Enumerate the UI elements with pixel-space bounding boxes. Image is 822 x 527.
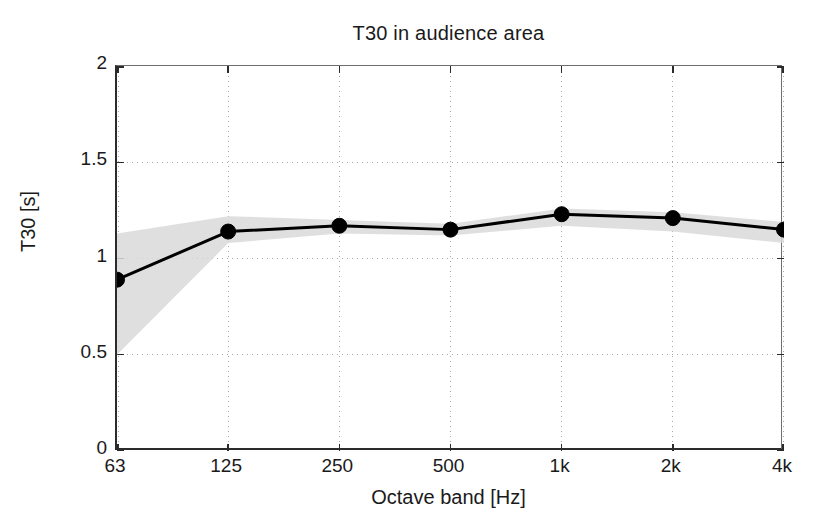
x-tick-label: 125 <box>210 455 242 477</box>
data-point-marker <box>332 218 347 233</box>
y-tick-label: 2 <box>96 52 107 74</box>
data-point-marker <box>221 224 236 239</box>
x-tick-label: 250 <box>321 455 353 477</box>
y-tick-label: 1 <box>96 245 107 267</box>
x-tick-label: 1k <box>550 455 570 477</box>
plot-area <box>115 65 782 450</box>
x-tick-label: 500 <box>433 455 465 477</box>
x-tick-label: 63 <box>104 455 125 477</box>
chart-figure: T30 in audience area T30 [s] 21.510.50 6… <box>0 0 822 527</box>
x-axis-tick-labels: 631252505001k2k4k <box>115 455 782 483</box>
x-tick-label: 4k <box>772 455 792 477</box>
data-point-marker <box>443 222 458 237</box>
y-tick-label: 0.5 <box>81 341 107 363</box>
y-axis-tick-labels: 21.510.50 <box>55 65 107 450</box>
x-axis-label: Octave band [Hz] <box>115 486 782 509</box>
y-tick-label: 1.5 <box>81 148 107 170</box>
data-point-marker <box>554 207 569 222</box>
y-axis-label: T30 [s] <box>17 132 40 312</box>
plot-canvas <box>117 66 784 451</box>
data-point-marker <box>665 211 680 226</box>
x-tick-label: 2k <box>661 455 681 477</box>
chart-title: T30 in audience area <box>115 22 782 45</box>
